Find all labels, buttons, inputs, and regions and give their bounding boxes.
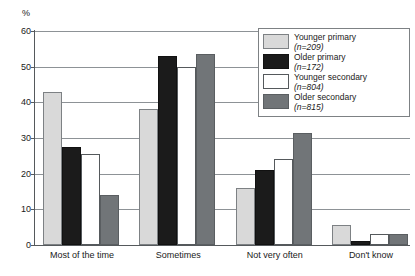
legend-swatch (263, 94, 289, 109)
legend-sample-size: (n=815) (294, 103, 356, 113)
bar (158, 56, 177, 245)
bar (370, 234, 389, 245)
bar (351, 241, 370, 245)
x-category-label: Not very often (247, 250, 303, 260)
x-category-label: Sometimes (156, 250, 201, 260)
bar (62, 147, 81, 245)
legend-rows: Younger primary(n=209)Older primary(n=17… (263, 33, 406, 112)
bar-chart: % 0102030405060 Most of the timeSometime… (0, 0, 415, 276)
legend-label-block: Older secondary(n=815) (294, 93, 356, 112)
bar (177, 67, 196, 245)
x-category-label: Most of the time (50, 250, 114, 260)
bar (139, 109, 158, 245)
y-tick-label: 40 (21, 97, 31, 107)
bar (255, 170, 274, 245)
bar (293, 133, 312, 245)
bar (274, 159, 293, 245)
bar (236, 188, 255, 245)
bar-group (43, 31, 121, 245)
bar (100, 195, 119, 245)
bar (332, 225, 351, 245)
x-axis-line (34, 245, 410, 246)
chart-legend: Younger primary(n=209)Older primary(n=17… (258, 28, 410, 117)
y-tick-label: 30 (21, 133, 31, 143)
legend-item: Younger secondary(n=804) (263, 73, 406, 92)
legend-sample-size: (n=804) (294, 83, 367, 93)
bar (43, 92, 62, 245)
legend-item: Younger primary(n=209) (263, 33, 406, 52)
y-tick-label: 20 (21, 169, 31, 179)
legend-sample-size: (n=172) (294, 63, 345, 73)
legend-item: Older primary(n=172) (263, 53, 406, 72)
legend-swatch (263, 74, 289, 89)
y-tick-label: 50 (21, 62, 31, 72)
bar-group (139, 31, 217, 245)
legend-swatch (263, 54, 289, 69)
y-tick-label: 10 (21, 204, 31, 214)
bar (389, 234, 408, 245)
legend-swatch (263, 34, 289, 49)
legend-label-block: Younger secondary(n=804) (294, 73, 367, 92)
x-category-label: Don't know (349, 250, 393, 260)
y-tick-label: 60 (21, 26, 31, 36)
legend-item: Older secondary(n=815) (263, 93, 406, 112)
legend-sample-size: (n=209) (294, 43, 356, 53)
legend-label-block: Younger primary(n=209) (294, 33, 356, 52)
bar (81, 154, 100, 245)
legend-label-block: Older primary(n=172) (294, 53, 345, 72)
bar (196, 54, 215, 245)
y-axis-ticks: 0102030405060 (0, 0, 31, 276)
